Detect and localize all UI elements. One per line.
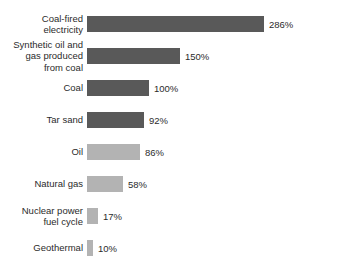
bar-value-label: 100% [154, 83, 178, 94]
category-label: Synthetic oil and gas produced from coal [0, 39, 87, 74]
bar-row: Coal 100% [0, 72, 337, 104]
bar-track: 10% [87, 232, 337, 262]
category-label: Coal [0, 82, 87, 94]
category-label: Geothermal [0, 242, 87, 254]
bar-track: 150% [87, 40, 337, 72]
bar-chart: Coal-fired electricity 286% Synthetic oi… [0, 0, 337, 262]
bar [87, 240, 93, 256]
bar-track: 17% [87, 200, 337, 232]
bar [87, 48, 180, 64]
bar-value-label: 10% [98, 243, 117, 254]
bar-track: 58% [87, 168, 337, 200]
bar-value-label: 86% [145, 147, 164, 158]
bar [87, 112, 144, 128]
bar-value-label: 92% [149, 115, 168, 126]
bar-track: 92% [87, 104, 337, 136]
bar-row: Coal-fired electricity 286% [0, 8, 337, 40]
bar [87, 208, 98, 224]
bar [87, 16, 264, 32]
bar [87, 80, 149, 96]
bar-row: Synthetic oil and gas produced from coal… [0, 40, 337, 72]
category-label: Coal-fired electricity [0, 13, 87, 36]
bar-value-label: 286% [269, 19, 293, 30]
bar [87, 176, 123, 192]
bar-track: 286% [87, 8, 337, 40]
category-label: Tar sand [0, 114, 87, 126]
bar-track: 100% [87, 72, 337, 104]
bar-track: 86% [87, 136, 337, 168]
category-label: Nuclear power fuel cycle [0, 205, 87, 228]
bar-row: Natural gas 58% [0, 168, 337, 200]
bar-row: Geothermal 10% [0, 232, 337, 262]
bar-value-label: 150% [185, 51, 209, 62]
bar-row: Oil 86% [0, 136, 337, 168]
bar-rows: Coal-fired electricity 286% Synthetic oi… [0, 8, 337, 262]
category-label: Oil [0, 146, 87, 158]
bar [87, 144, 140, 160]
category-label: Natural gas [0, 178, 87, 190]
bar-value-label: 58% [128, 179, 147, 190]
bar-row: Tar sand 92% [0, 104, 337, 136]
bar-row: Nuclear power fuel cycle 17% [0, 200, 337, 232]
bar-value-label: 17% [103, 211, 122, 222]
